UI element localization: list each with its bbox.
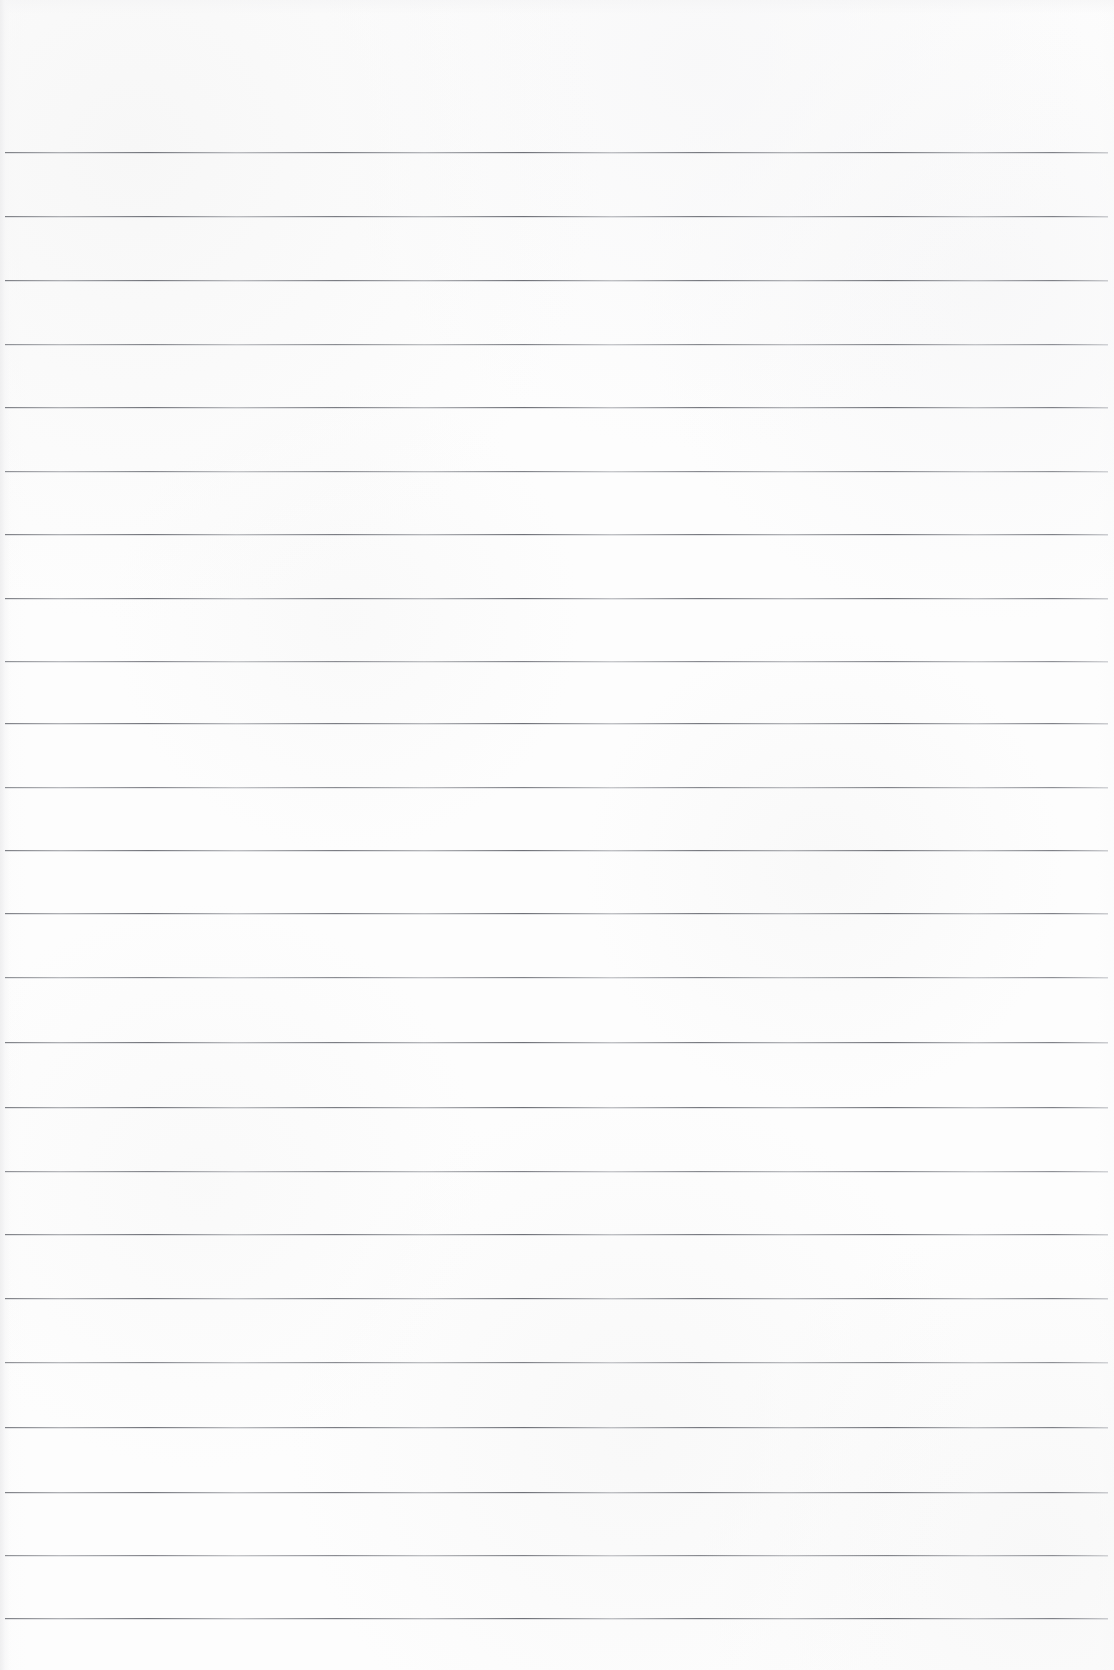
ruled-line <box>5 1234 1108 1235</box>
ruled-line <box>5 152 1108 153</box>
ruled-line <box>5 280 1108 281</box>
ruled-line <box>5 1555 1108 1556</box>
ruled-line <box>5 723 1108 724</box>
ruled-line <box>5 787 1108 788</box>
ruled-line <box>5 216 1108 217</box>
ruled-line <box>5 344 1108 345</box>
ruled-line <box>5 1171 1108 1172</box>
ruled-line <box>5 913 1108 914</box>
ruled-line <box>5 1362 1108 1363</box>
ruled-line <box>5 661 1108 662</box>
ruled-line <box>5 1107 1108 1108</box>
ruled-line <box>5 1492 1108 1493</box>
ruled-line <box>5 407 1108 408</box>
ruled-line <box>5 1298 1108 1299</box>
ruled-line <box>5 977 1108 978</box>
ruled-line <box>5 471 1108 472</box>
ruled-line <box>5 534 1108 535</box>
ruled-line <box>5 1618 1108 1619</box>
ruled-line <box>5 850 1108 851</box>
ruled-line <box>5 598 1108 599</box>
notepad-page <box>0 0 1114 1670</box>
ruled-lines-layer <box>0 0 1114 1670</box>
ruled-line <box>5 1042 1108 1043</box>
ruled-line <box>5 1427 1108 1428</box>
